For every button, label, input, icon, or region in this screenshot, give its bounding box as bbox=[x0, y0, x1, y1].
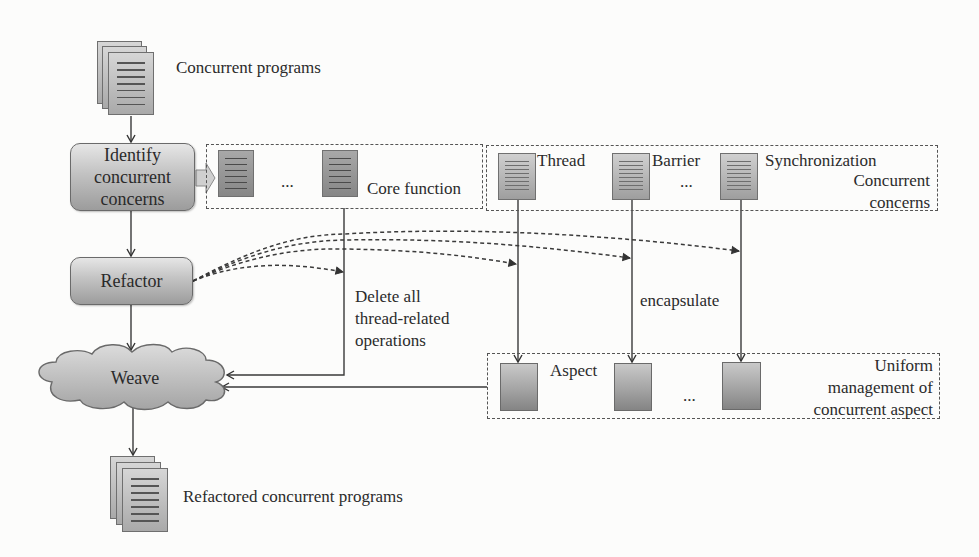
input-label: Concurrent programs bbox=[176, 58, 321, 78]
input-document-stack-icon bbox=[97, 41, 154, 116]
thread-label: Thread bbox=[537, 151, 585, 171]
aspect-group-label-line-3: concurrent aspect bbox=[814, 400, 933, 420]
concerns-ellipsis: ... bbox=[680, 172, 693, 192]
aspect-label: Aspect bbox=[550, 361, 597, 381]
barrier-label: Barrier bbox=[652, 151, 700, 171]
synchronization-document-icon bbox=[720, 153, 758, 200]
delete-annotation-line-2: thread-related bbox=[355, 309, 449, 329]
output-document-stack-icon bbox=[110, 456, 168, 532]
aspect-group-label-line-1: Uniform bbox=[874, 356, 933, 376]
arrow-core-to-weave bbox=[227, 208, 344, 375]
core-ellipsis: ... bbox=[281, 172, 294, 192]
dashed-arrow-refactor-to-thread bbox=[193, 249, 516, 281]
refactor-step: Refactor bbox=[70, 257, 193, 305]
identify-label-line-1: Identify bbox=[94, 144, 171, 166]
dashed-arrow-refactor-to-core bbox=[193, 265, 343, 281]
aspect-square-2 bbox=[614, 363, 652, 411]
core-document-icon-1 bbox=[218, 150, 254, 197]
dashed-arrow-refactor-to-barrier bbox=[193, 240, 630, 281]
aspect-ellipsis: ... bbox=[683, 386, 696, 406]
concerns-group-label-line-2: concerns bbox=[870, 193, 930, 213]
weave-label: Weave bbox=[90, 367, 180, 389]
identify-label-line-3: concerns bbox=[94, 188, 171, 210]
dashed-arrow-refactor-to-sync bbox=[193, 231, 739, 281]
identify-concerns-step: Identify concurrent concerns bbox=[70, 143, 195, 211]
delete-annotation-line-3: operations bbox=[355, 331, 426, 351]
barrier-document-icon bbox=[612, 153, 650, 200]
aspect-group-label-line-2: management of bbox=[828, 378, 933, 398]
aspect-square-1 bbox=[500, 363, 538, 411]
concerns-group-label-line-1: Concurrent bbox=[854, 171, 930, 191]
refactor-label: Refactor bbox=[101, 270, 163, 292]
synchronization-label: Synchronization bbox=[765, 151, 876, 171]
aspect-square-3 bbox=[722, 362, 761, 410]
core-function-label: Core function bbox=[367, 179, 461, 199]
output-label: Refactored concurrent programs bbox=[183, 487, 403, 507]
thread-document-icon bbox=[498, 153, 536, 200]
identify-label-line-2: concurrent bbox=[94, 166, 171, 188]
delete-annotation-line-1: Delete all bbox=[355, 287, 421, 307]
core-document-icon-2 bbox=[322, 150, 358, 197]
encapsulate-annotation: encapsulate bbox=[640, 291, 719, 311]
